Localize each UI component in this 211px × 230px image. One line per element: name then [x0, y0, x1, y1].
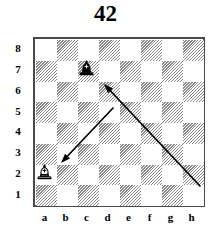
board-square-c5[interactable] [78, 102, 99, 123]
board-square-f3[interactable] [141, 144, 162, 165]
file-label-a: a [38, 211, 52, 223]
board-square-b8[interactable] [57, 40, 78, 61]
board-square-d6[interactable] [99, 82, 120, 103]
board-square-a7[interactable] [36, 61, 57, 82]
board-square-f1[interactable] [141, 185, 162, 206]
board-square-a4[interactable] [36, 123, 57, 144]
board-square-h4[interactable] [183, 123, 204, 144]
board-square-h1[interactable] [183, 185, 204, 206]
file-label-f: f [143, 211, 157, 223]
board-grid [36, 40, 204, 206]
board-square-c2[interactable] [78, 165, 99, 186]
board-square-b2[interactable] [57, 165, 78, 186]
board-square-b6[interactable] [57, 82, 78, 103]
file-label-h: h [185, 211, 199, 223]
board-square-e5[interactable] [120, 102, 141, 123]
file-label-g: g [164, 211, 178, 223]
rank-label-7: 7 [11, 63, 25, 75]
board-square-a2[interactable] [36, 165, 57, 186]
board-square-a6[interactable] [36, 82, 57, 103]
board-square-d2[interactable] [99, 165, 120, 186]
board-square-b4[interactable] [57, 123, 78, 144]
board-square-f8[interactable] [141, 40, 162, 61]
board-square-d1[interactable] [99, 185, 120, 206]
file-label-b: b [59, 211, 73, 223]
board-square-c7[interactable] [78, 61, 99, 82]
board-square-e7[interactable] [120, 61, 141, 82]
rank-label-1: 1 [11, 188, 25, 200]
board-square-e6[interactable] [120, 82, 141, 103]
board-square-g1[interactable] [162, 185, 183, 206]
rank-label-8: 8 [11, 42, 25, 54]
diagram-title: 42 [0, 1, 211, 27]
board-square-h2[interactable] [183, 165, 204, 186]
board-square-d7[interactable] [99, 61, 120, 82]
board-square-h7[interactable] [183, 61, 204, 82]
board-square-h5[interactable] [183, 102, 204, 123]
board-square-g5[interactable] [162, 102, 183, 123]
board-square-h3[interactable] [183, 144, 204, 165]
board-square-f5[interactable] [141, 102, 162, 123]
chess-board[interactable] [33, 37, 205, 207]
board-square-g7[interactable] [162, 61, 183, 82]
board-square-f6[interactable] [141, 82, 162, 103]
file-label-e: e [122, 211, 136, 223]
board-square-c1[interactable] [78, 185, 99, 206]
board-square-a3[interactable] [36, 144, 57, 165]
board-square-e1[interactable] [120, 185, 141, 206]
board-square-h6[interactable] [183, 82, 204, 103]
board-square-c4[interactable] [78, 123, 99, 144]
board-square-c3[interactable] [78, 144, 99, 165]
board-square-b3[interactable] [57, 144, 78, 165]
board-square-d3[interactable] [99, 144, 120, 165]
board-square-e4[interactable] [120, 123, 141, 144]
board-square-d5[interactable] [99, 102, 120, 123]
board-square-a1[interactable] [36, 185, 57, 206]
rank-label-2: 2 [11, 167, 25, 179]
board-square-g6[interactable] [162, 82, 183, 103]
board-square-g2[interactable] [162, 165, 183, 186]
board-square-f4[interactable] [141, 123, 162, 144]
rank-label-6: 6 [11, 84, 25, 96]
chess-diagram: 42 87654321 abcdefgh [0, 0, 211, 230]
board-square-g3[interactable] [162, 144, 183, 165]
rank-label-3: 3 [11, 146, 25, 158]
board-square-d8[interactable] [99, 40, 120, 61]
board-square-f2[interactable] [141, 165, 162, 186]
file-label-c: c [80, 211, 94, 223]
rank-label-5: 5 [11, 105, 25, 117]
board-square-a8[interactable] [36, 40, 57, 61]
file-label-d: d [101, 211, 115, 223]
board-square-g8[interactable] [162, 40, 183, 61]
board-square-c6[interactable] [78, 82, 99, 103]
board-square-a5[interactable] [36, 102, 57, 123]
board-square-b1[interactable] [57, 185, 78, 206]
board-square-h8[interactable] [183, 40, 204, 61]
board-square-g4[interactable] [162, 123, 183, 144]
rank-label-4: 4 [11, 125, 25, 137]
board-square-c8[interactable] [78, 40, 99, 61]
board-square-b7[interactable] [57, 61, 78, 82]
board-square-e3[interactable] [120, 144, 141, 165]
board-square-e8[interactable] [120, 40, 141, 61]
board-square-f7[interactable] [141, 61, 162, 82]
board-square-d4[interactable] [99, 123, 120, 144]
board-square-e2[interactable] [120, 165, 141, 186]
board-square-b5[interactable] [57, 102, 78, 123]
